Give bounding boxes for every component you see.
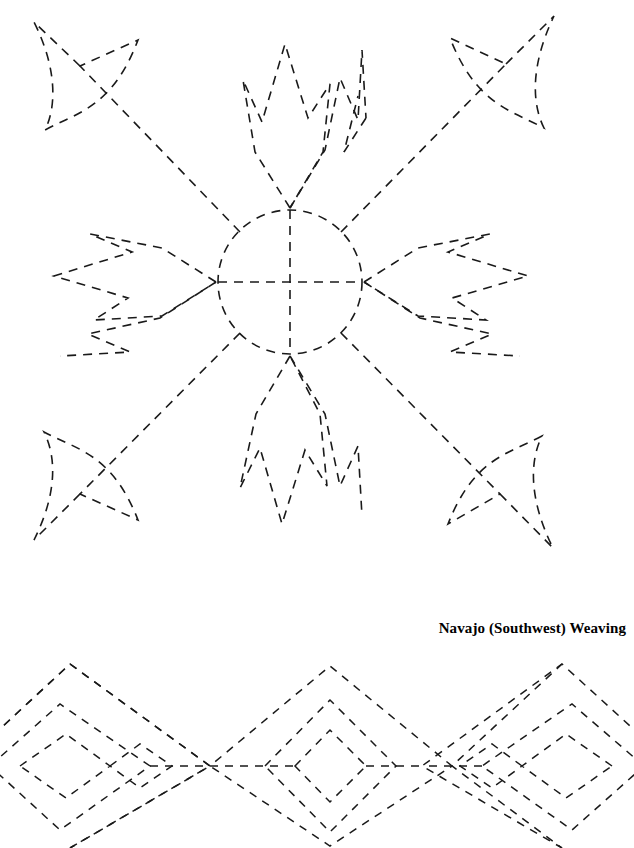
figure-sun-face-motif [0, 0, 634, 600]
document-page: Navajo (Southwest) Weaving [0, 0, 634, 848]
figure-diamond-band-motif [0, 648, 634, 848]
figure-caption: Navajo (Southwest) Weaving [439, 620, 626, 637]
